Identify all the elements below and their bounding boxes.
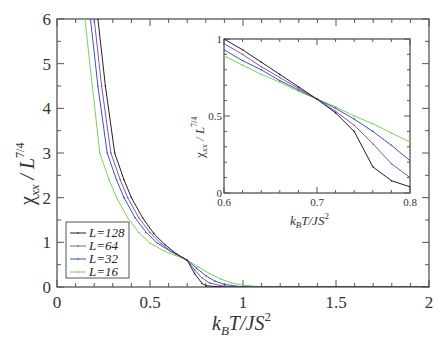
y-axis-label: χxx / L7/4 (13, 143, 42, 206)
main-x-tick-label: 1.5 (325, 293, 346, 312)
main-y-tick-label: 3 (43, 144, 52, 163)
inset-y-tick-label: 0 (217, 187, 223, 199)
main-x-tick-label: 0.5 (139, 293, 160, 312)
x-axis-label: kBT/JS2 (212, 309, 271, 338)
inset-x-tick-label: 0.7 (310, 196, 324, 208)
legend: L=128L=64L=32L=16 (66, 222, 129, 279)
main-x-tick-label: 0 (53, 293, 62, 312)
main-y-tick-label: 0 (43, 278, 52, 297)
legend-item-label: L=16 (88, 264, 119, 279)
inset-y-tick-label: 1 (217, 33, 223, 45)
chart: 00.511.520123456 0.60.70.800.51 L=128L=6… (0, 0, 445, 348)
inset-y-tick-label: 0.5 (208, 110, 222, 122)
main-y-tick-label: 2 (43, 189, 52, 208)
inset-x-tick-label: 0.8 (403, 196, 417, 208)
main-x-tick-label: 2 (425, 293, 434, 312)
main-x-tick-label: 1 (239, 293, 248, 312)
main-y-tick-label: 5 (43, 55, 52, 74)
main-y-tick-label: 4 (43, 99, 52, 118)
inset-plot-frame (224, 39, 410, 193)
main-y-tick-label: 6 (43, 10, 52, 29)
main-y-tick-label: 1 (43, 233, 52, 252)
